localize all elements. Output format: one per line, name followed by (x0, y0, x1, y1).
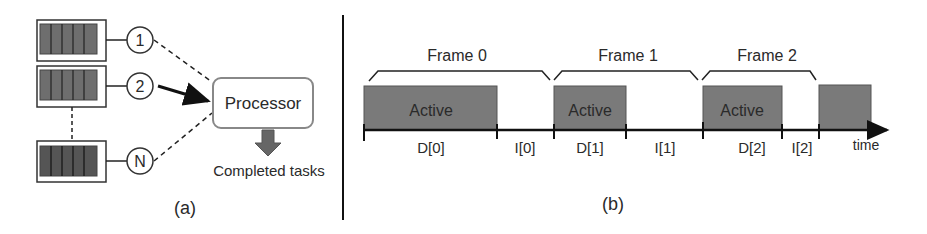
segment-i1: I[1] (655, 139, 676, 156)
queue-1-label: 1 (136, 32, 145, 49)
frame-0-brace (369, 71, 550, 81)
caption-b: (b) (602, 194, 624, 214)
queue-2-label: 2 (136, 78, 145, 95)
diagram-canvas: 1 2 N Processor Completed tasks (a) Fram… (0, 0, 927, 234)
link-2-arrow (158, 86, 208, 101)
link-n-dashed (154, 113, 212, 161)
panel-b: Frame 0 Frame 1 Frame 2 Active Active Ac… (364, 47, 887, 214)
queue-2 (37, 66, 127, 107)
frame-0-label: Frame 0 (427, 47, 487, 64)
axis-label-time: time (853, 137, 880, 153)
frame-2-label: Frame 2 (737, 47, 797, 64)
active-label-0: Active (409, 102, 453, 119)
segment-d2: D[2] (738, 139, 766, 156)
queue-n (37, 141, 127, 182)
queue-n-label: N (134, 153, 146, 170)
link-1-dashed (154, 40, 212, 82)
caption-a: (a) (174, 198, 196, 218)
segment-d1: D[1] (576, 139, 604, 156)
segment-i2: I[2] (792, 139, 813, 156)
active-label-2: Active (720, 102, 764, 119)
segment-i0: I[0] (515, 139, 536, 156)
frame-2-brace (702, 71, 816, 80)
queue-1 (37, 20, 127, 61)
segment-d0: D[0] (417, 139, 445, 156)
output-label: Completed tasks (213, 162, 325, 179)
processor-label: Processor (225, 94, 302, 113)
output-arrow-icon (255, 130, 281, 156)
frame-1-brace (554, 71, 698, 80)
panel-a: 1 2 N Processor Completed tasks (a) (37, 20, 325, 218)
active-label-1: Active (568, 102, 612, 119)
active-block-3 (819, 85, 871, 130)
frame-1-label: Frame 1 (598, 47, 658, 64)
